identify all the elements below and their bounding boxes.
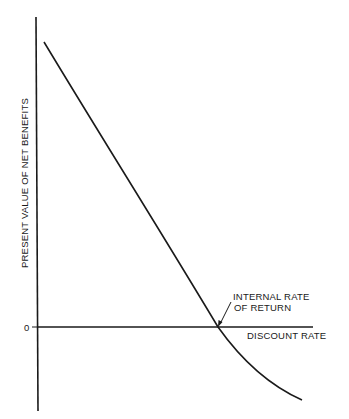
zero-tick-label: 0 [24,322,29,333]
npv-curve [44,42,302,400]
npv-diagram: 0 PRESENT VALUE OF NET BENEFITS INTERNAL… [0,0,349,419]
irr-annotation-line1: INTERNAL RATE [233,291,310,302]
irr-pointer [220,302,231,324]
irr-annotation-line2: OF RETURN [234,302,291,313]
x-axis-label: DISCOUNT RATE [247,330,326,341]
y-axis-label: PRESENT VALUE OF NET BENEFITS [19,98,30,268]
y-axis [36,17,38,411]
